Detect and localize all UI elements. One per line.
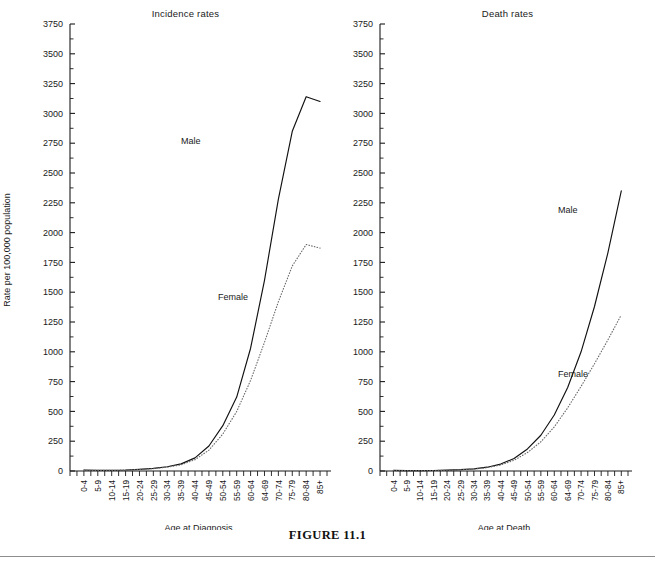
series-line-female	[84, 245, 320, 471]
chart-panel-incidence: Incidence rates Rate per 100,000 populat…	[0, 0, 335, 530]
y-tick-label: 1500	[43, 287, 63, 297]
y-tick-label: 500	[358, 407, 373, 417]
y-tick-label: 2000	[353, 228, 373, 238]
series-line-male	[393, 191, 621, 471]
x-tick-label: 70-74	[577, 480, 586, 501]
y-tick-label: 2500	[353, 168, 373, 178]
x-tick-label: 75-79	[591, 480, 600, 501]
y-tick-label: 1250	[353, 317, 373, 327]
chart-panel-death: Death rates 0250500750100012501500175020…	[330, 0, 655, 530]
y-tick-label: 2250	[43, 198, 63, 208]
x-tick-label: 30-34	[163, 480, 172, 501]
figure-caption: FIGURE 11.1	[0, 528, 655, 543]
plot-area-incidence: 0250500750100012501500175020002250250027…	[0, 0, 335, 530]
figure-divider-rule	[0, 556, 655, 557]
y-tick-label: 3750	[353, 19, 373, 29]
x-tick-label: 0-4	[80, 480, 89, 492]
x-tick-label: 40-44	[191, 480, 200, 501]
x-tick-label: 80-84	[302, 480, 311, 501]
y-tick-label: 1750	[43, 258, 63, 268]
x-tick-label: 35-39	[483, 480, 492, 501]
x-tick-label: 15-19	[122, 480, 131, 501]
y-tick-label: 1500	[353, 287, 373, 297]
y-tick-label: 2750	[353, 138, 373, 148]
y-tick-label: 3500	[353, 49, 373, 59]
series-line-female	[393, 315, 621, 471]
x-tick-label: 45-49	[205, 480, 214, 501]
y-tick-label: 3250	[353, 79, 373, 89]
x-tick-label: 20-24	[136, 480, 145, 501]
x-tick-label: 85+	[617, 480, 626, 494]
y-tick-label: 2500	[43, 168, 63, 178]
series-annotation-female: Female	[218, 292, 248, 302]
x-tick-label: 0-4	[390, 480, 399, 492]
y-tick-label: 3500	[43, 49, 63, 59]
figure-root: Incidence rates Rate per 100,000 populat…	[0, 0, 655, 570]
x-tick-label: 85+	[316, 480, 325, 494]
y-tick-label: 3000	[353, 109, 373, 119]
x-tick-label: 64-69	[564, 480, 573, 501]
x-tick-label: 45-49	[510, 480, 519, 501]
y-tick-label: 3250	[43, 79, 63, 89]
x-tick-label: 75-79	[288, 480, 297, 501]
y-tick-label: 1000	[43, 347, 63, 357]
x-tick-label: 55-59	[233, 480, 242, 501]
x-tick-label: 5-9	[403, 480, 412, 492]
y-tick-label: 3750	[43, 19, 63, 29]
x-tick-label: 35-39	[177, 480, 186, 501]
series-annotation-female: Female	[558, 369, 588, 379]
y-tick-label: 1750	[353, 258, 373, 268]
x-tick-label: 70-74	[275, 480, 284, 501]
x-tick-label: 25-29	[457, 480, 466, 501]
y-tick-label: 0	[58, 466, 63, 476]
y-tick-label: 750	[48, 377, 63, 387]
y-tick-label: 1000	[353, 347, 373, 357]
series-annotation-male: Male	[181, 136, 201, 146]
x-tick-label: 20-24	[443, 480, 452, 501]
x-tick-label: 15-19	[430, 480, 439, 501]
x-tick-label: 55-59	[537, 480, 546, 501]
series-line-male	[84, 97, 320, 471]
x-tick-label: 30-34	[470, 480, 479, 501]
y-tick-label: 3000	[43, 109, 63, 119]
y-tick-label: 750	[358, 377, 373, 387]
series-annotation-male: Male	[558, 205, 578, 215]
x-tick-label: 64-69	[261, 480, 270, 501]
x-tick-label: 10-14	[416, 480, 425, 501]
x-tick-label: 5-9	[94, 480, 103, 492]
y-tick-label: 250	[48, 436, 63, 446]
x-tick-label: 60-64	[550, 480, 559, 501]
x-tick-label: 80-84	[604, 480, 613, 501]
y-tick-label: 250	[358, 436, 373, 446]
y-tick-label: 2750	[43, 138, 63, 148]
y-tick-label: 500	[48, 407, 63, 417]
y-tick-label: 0	[368, 466, 373, 476]
y-tick-label: 1250	[43, 317, 63, 327]
x-tick-label: 10-14	[108, 480, 117, 501]
y-tick-label: 2000	[43, 228, 63, 238]
plot-area-death: 0250500750100012501500175020002250250027…	[330, 0, 655, 530]
y-tick-label: 2250	[353, 198, 373, 208]
x-tick-label: 50-54	[524, 480, 533, 501]
x-tick-label: 25-29	[150, 480, 159, 501]
x-tick-label: 50-54	[219, 480, 228, 501]
x-tick-label: 60-64	[247, 480, 256, 501]
x-tick-label: 40-44	[497, 480, 506, 501]
